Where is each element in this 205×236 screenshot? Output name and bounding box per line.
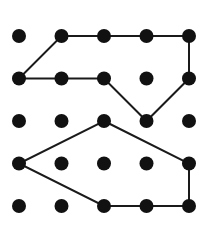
grid-dot[interactable]: [12, 114, 26, 128]
grid-dot[interactable]: [55, 199, 69, 213]
grid-dot[interactable]: [182, 29, 196, 43]
grid-dot[interactable]: [12, 157, 26, 171]
grid-dot[interactable]: [97, 72, 111, 86]
grid-dot[interactable]: [97, 114, 111, 128]
grid-dot[interactable]: [182, 157, 196, 171]
dot-grid-figure: [0, 0, 205, 236]
grid-dot[interactable]: [12, 199, 26, 213]
grid-dot[interactable]: [55, 114, 69, 128]
grid-dot[interactable]: [140, 199, 154, 213]
grid-dot[interactable]: [182, 72, 196, 86]
grid-dot[interactable]: [97, 29, 111, 43]
grid-dot[interactable]: [12, 72, 26, 86]
grid-dot[interactable]: [55, 157, 69, 171]
grid-dot[interactable]: [140, 157, 154, 171]
grid-dot[interactable]: [140, 29, 154, 43]
grid-dot[interactable]: [97, 199, 111, 213]
grid-dot[interactable]: [55, 72, 69, 86]
grid-dot[interactable]: [55, 29, 69, 43]
grid-dot[interactable]: [182, 114, 196, 128]
grid-dot[interactable]: [140, 72, 154, 86]
grid-dot[interactable]: [140, 114, 154, 128]
grid-dot[interactable]: [182, 199, 196, 213]
figure-canvas: [0, 0, 205, 236]
grid-dot[interactable]: [97, 157, 111, 171]
grid-dot[interactable]: [12, 29, 26, 43]
